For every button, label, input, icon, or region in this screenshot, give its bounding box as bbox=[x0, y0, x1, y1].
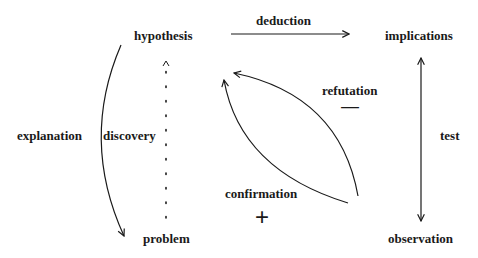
confirmation-plus-sign: + bbox=[255, 205, 269, 229]
edge-label-explanation: explanation bbox=[17, 129, 82, 142]
node-observation: observation bbox=[388, 232, 453, 245]
edge-label-test: test bbox=[440, 129, 460, 142]
node-implications: implications bbox=[385, 29, 453, 42]
node-problem: problem bbox=[143, 232, 190, 245]
edge-label-discovery: discovery bbox=[103, 129, 156, 142]
confirmation-arrow bbox=[224, 80, 348, 203]
edge-label-confirmation: confirmation bbox=[225, 187, 297, 200]
diagram-canvas: hypothesis implications problem observat… bbox=[0, 0, 478, 258]
discovery-arrowhead bbox=[163, 61, 169, 66]
edge-label-deduction: deduction bbox=[256, 14, 311, 27]
refutation-minus-sign: — bbox=[341, 97, 359, 115]
node-hypothesis: hypothesis bbox=[134, 29, 193, 42]
